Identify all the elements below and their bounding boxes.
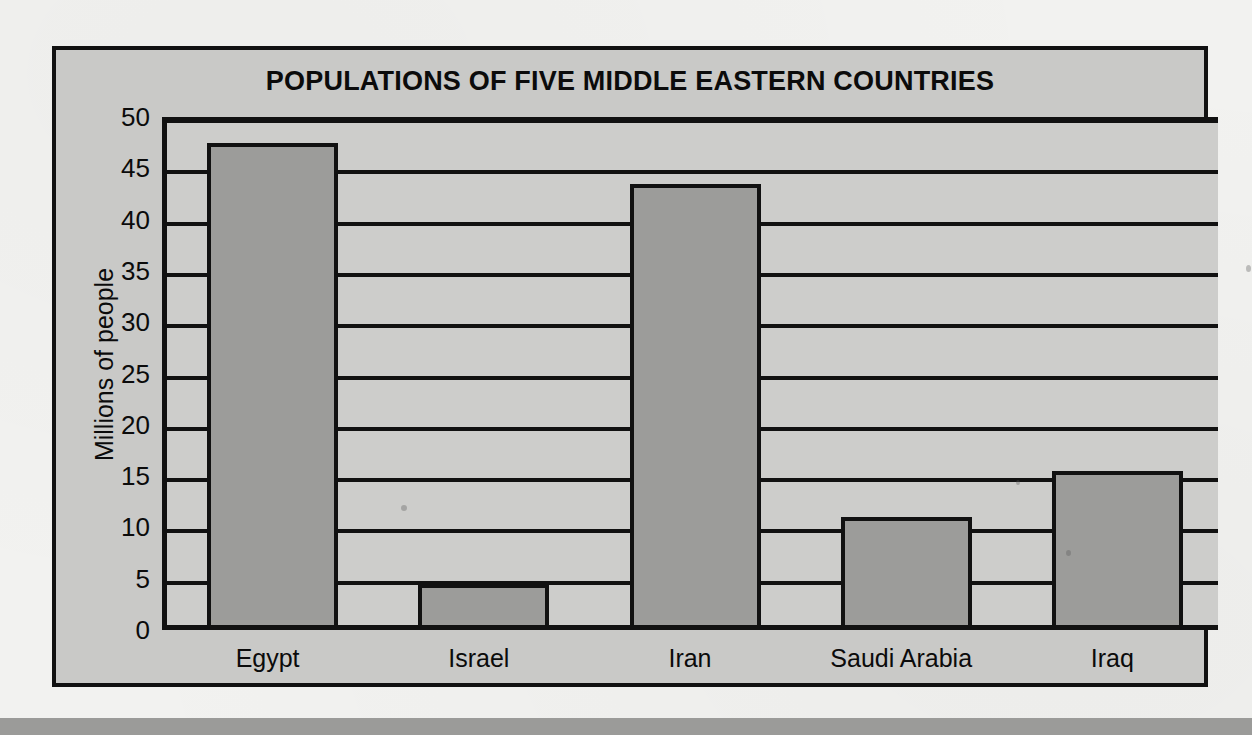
bar xyxy=(418,584,549,625)
page-background: POPULATIONS OF FIVE MIDDLE EASTERN COUNT… xyxy=(0,0,1252,735)
chart-panel: POPULATIONS OF FIVE MIDDLE EASTERN COUNT… xyxy=(52,46,1208,687)
y-axis-tick-label: 50 xyxy=(64,104,150,130)
bar xyxy=(1052,471,1183,625)
y-axis-tick-label: 35 xyxy=(64,258,150,284)
y-axis-tick-label: 40 xyxy=(64,207,150,233)
y-axis-tick-label: 30 xyxy=(64,309,150,335)
x-axis-tick-label: Iraq xyxy=(1007,646,1218,671)
plot-area xyxy=(162,117,1218,630)
bar xyxy=(630,184,761,625)
chart-title: POPULATIONS OF FIVE MIDDLE EASTERN COUNT… xyxy=(56,66,1204,97)
y-axis-tick-label: 10 xyxy=(64,514,150,540)
bottom-gray-strip xyxy=(0,718,1252,735)
y-axis-tick-label: 5 xyxy=(64,566,150,592)
y-axis-tick-label: 20 xyxy=(64,412,150,438)
x-axis-tick-label: Iran xyxy=(584,646,795,671)
y-axis-tick-label: 0 xyxy=(64,617,150,643)
scan-speck xyxy=(1246,265,1251,272)
bar xyxy=(207,143,338,625)
x-axis-tick-label: Saudi Arabia xyxy=(796,646,1007,671)
gridline xyxy=(167,119,1218,123)
y-axis-tick-label: 45 xyxy=(64,155,150,181)
y-axis-tick-label: 15 xyxy=(64,463,150,489)
x-axis-tick-label: Israel xyxy=(373,646,584,671)
bar xyxy=(841,517,972,625)
y-axis-tick-label: 25 xyxy=(64,361,150,387)
x-axis-tick-label: Egypt xyxy=(162,646,373,671)
